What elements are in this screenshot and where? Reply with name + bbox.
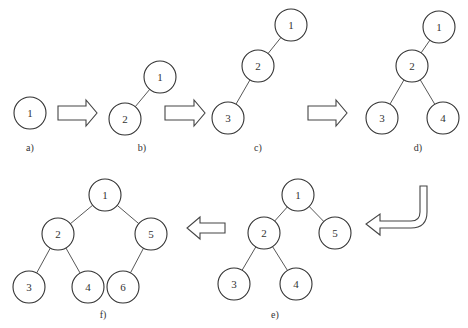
panel-label-e: e) <box>271 309 279 321</box>
node-label: 5 <box>332 227 338 239</box>
node-c-1: 1 <box>275 9 307 41</box>
node-e-1: 1 <box>282 179 314 211</box>
panel-label-b: b) <box>138 142 146 154</box>
edge-c-1-2 <box>268 37 281 53</box>
node-label: 1 <box>27 107 33 119</box>
node-f-5: 5 <box>135 218 167 250</box>
node-label: 2 <box>122 113 128 125</box>
panel-label-d: d) <box>414 142 422 154</box>
node-f-6: 6 <box>107 271 139 303</box>
node-label: 2 <box>55 228 61 240</box>
node-label: 2 <box>261 227 267 239</box>
edge-e-1-5 <box>309 206 324 221</box>
edge-e-2-3 <box>242 247 256 270</box>
node-label: 2 <box>409 60 415 72</box>
node-label: 2 <box>255 60 261 72</box>
edge-c-2-3 <box>236 80 250 104</box>
node-label: 4 <box>440 112 446 124</box>
node-d-4: 4 <box>427 102 459 134</box>
node-label: 3 <box>225 112 231 124</box>
node-label: 1 <box>157 71 163 83</box>
edge-d-1-2 <box>421 40 430 53</box>
edge-e-2-4 <box>273 247 288 271</box>
node-e-2: 2 <box>248 217 280 249</box>
node-label: 1 <box>436 21 442 33</box>
node-f-2: 2 <box>42 218 74 250</box>
node-f-1: 1 <box>89 179 121 211</box>
node-b-2: 2 <box>109 103 141 135</box>
edge-f-2-3 <box>37 248 51 273</box>
node-c-3: 3 <box>212 102 244 134</box>
edges <box>37 37 435 273</box>
node-b-1: 1 <box>144 61 176 93</box>
node-e-3: 3 <box>218 268 250 300</box>
node-label: 6 <box>120 281 126 293</box>
tree-construction-diagram: 112123123412534125346 a) b) c) d) e) f) <box>0 0 468 328</box>
panel-label-a: a) <box>26 142 34 154</box>
edge-f-1-2 <box>70 205 92 224</box>
arrow-b-to-c <box>165 100 205 126</box>
edge-f-5-6 <box>130 248 143 273</box>
edge-d-2-3 <box>390 80 404 104</box>
arrow-d-to-e <box>366 186 427 235</box>
edge-e-1-2 <box>275 207 288 221</box>
arrow-e-to-f <box>187 217 225 239</box>
node-a-1: 1 <box>14 97 46 129</box>
node-label: 3 <box>231 278 237 290</box>
edge-f-1-5 <box>117 205 139 223</box>
panel-label-c: c) <box>254 142 262 154</box>
node-label: 1 <box>288 19 294 31</box>
node-d-1: 1 <box>423 11 455 43</box>
edge-d-2-4 <box>420 80 435 105</box>
node-f-4: 4 <box>72 271 104 303</box>
nodes: 112123123412534125346 <box>13 9 459 303</box>
node-label: 1 <box>102 189 108 201</box>
edge-b-1-2 <box>135 89 150 106</box>
node-f-3: 3 <box>13 271 45 303</box>
node-label: 1 <box>295 189 301 201</box>
node-e-4: 4 <box>280 268 312 300</box>
node-d-2: 2 <box>396 50 428 82</box>
arrow-a-to-b <box>58 100 97 126</box>
arrow-c-to-d <box>308 100 347 126</box>
panel-label-f: f) <box>100 309 107 321</box>
node-label: 3 <box>26 281 32 293</box>
node-c-2: 2 <box>242 50 274 82</box>
node-label: 4 <box>293 278 299 290</box>
node-label: 3 <box>379 112 385 124</box>
edge-f-2-4 <box>66 248 80 273</box>
node-e-5: 5 <box>319 217 351 249</box>
node-label: 4 <box>85 281 91 293</box>
node-label: 5 <box>148 228 154 240</box>
node-d-3: 3 <box>366 102 398 134</box>
